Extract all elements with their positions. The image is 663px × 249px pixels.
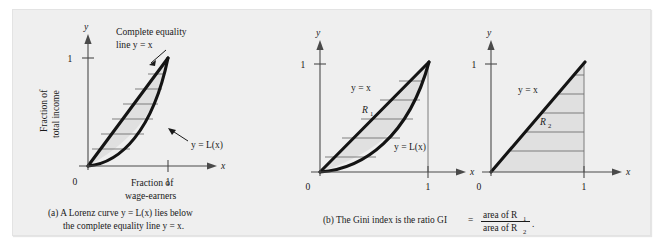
panel-b-left-x-arrow <box>456 168 466 175</box>
panel-b-right-y-tick-label: 1 <box>472 59 477 70</box>
panel-b-caption-equals: = <box>468 215 473 225</box>
panel-b-fraction-denominator: area of R <box>483 223 518 233</box>
panel-b-caption: (b) The Gini index is the ratio GI = are… <box>323 210 534 235</box>
panel-b-left-label-equality: y = x <box>351 82 371 93</box>
figure-root: y x 1 1 0 Fraction of total income Fract… <box>0 0 663 249</box>
panel-a-y-axis-title-line2: total income <box>50 90 61 138</box>
panel-a-y-arrow <box>84 34 91 44</box>
panel-a-leader-equality-arrowhead <box>149 60 156 66</box>
panel-b-right-x-axis-symbol: x <box>625 166 631 177</box>
panel-b-left-y-tick-label: 1 <box>301 59 306 70</box>
panel-a-leader-lorenz-arrowhead <box>168 128 176 135</box>
panel-b-left-x-axis-symbol: x <box>469 166 475 177</box>
panel-b-fraction-numerator: area of R <box>483 210 518 220</box>
panel-a-leader-equality <box>151 50 166 63</box>
figure-panel: y x 1 1 0 Fraction of total income Fract… <box>12 9 651 236</box>
panel-a-x-axis-symbol: x <box>220 160 226 171</box>
panel-a-x-axis-title-line1: Fraction of <box>131 177 174 188</box>
panel-b-right-y-arrow <box>487 40 494 50</box>
panel-a-x-axis-title-line2: wage-earners <box>125 190 176 201</box>
panel-a-annotation-equality-line2: line y = x <box>116 39 153 50</box>
panel-a-origin-label: 0 <box>73 176 78 187</box>
panel-b-left-y-axis-symbol: y <box>315 27 321 38</box>
panel-b-right-region-label-text: R <box>539 116 546 127</box>
figure-svg: y x 1 1 0 Fraction of total income Fract… <box>13 10 650 235</box>
panel-b-caption-period: . <box>532 219 534 229</box>
panel-b-left-region-label: R 1 <box>361 104 373 117</box>
panel-b-right-x-arrow <box>612 168 622 175</box>
panel-b-caption-prefix: (b) The Gini index is the ratio GI <box>323 215 447 226</box>
panel-b-left-label-lorenz: y = L(x) <box>394 141 426 153</box>
panel-b-right-origin-label: 0 <box>477 181 482 192</box>
panel-a-group: y x 1 1 0 Fraction of total income Fract… <box>38 21 226 201</box>
panel-b-right-y-axis-symbol: y <box>486 27 492 38</box>
panel-b-right-chart: y x 1 1 0 y = x R 2 <box>472 27 631 192</box>
panel-a-equality-line <box>88 58 168 166</box>
panel-b-left-equality-line <box>320 62 429 172</box>
panel-b-caption-fraction: area of R 1 area of R 2 <box>481 210 530 235</box>
panel-a-caption: (a) A Lorenz curve y = L(x) lies below t… <box>48 208 193 231</box>
panel-b-left-origin-label: 0 <box>306 181 311 192</box>
panel-a-y-tick-label: 1 <box>68 53 73 64</box>
panel-a-y-axis-title-line1: Fraction of <box>38 89 49 132</box>
panel-a-annotation-equality-line1: Complete equality <box>116 26 187 37</box>
panel-b-right-x-tick-label: 1 <box>582 181 587 192</box>
panel-b-left-region-label-text: R <box>361 104 368 115</box>
panel-a-y-axis-symbol: y <box>83 21 89 32</box>
panel-b-right-region-label-sub: 2 <box>548 122 551 129</box>
panel-a-caption-line2: the complete equality line y = x. <box>63 221 184 231</box>
panel-b-left-chart: y x 1 1 0 y = x y = L(x) R 1 <box>301 27 475 192</box>
panel-b-left-region-label-sub: 1 <box>370 110 373 117</box>
panel-a-annotation-lorenz: y = L(x) <box>191 139 223 151</box>
panel-b-fraction-denominator-sub: 2 <box>523 228 526 235</box>
panel-b-left-x-tick-label: 1 <box>426 181 431 192</box>
panel-b-right-label-equality: y = x <box>518 84 538 95</box>
panel-b-left-y-arrow <box>316 40 323 50</box>
panel-a-x-arrow <box>207 162 217 169</box>
panel-b-fraction-numerator-sub: 1 <box>523 215 526 222</box>
panel-a-caption-line1: (a) A Lorenz curve y = L(x) lies below <box>48 208 193 219</box>
